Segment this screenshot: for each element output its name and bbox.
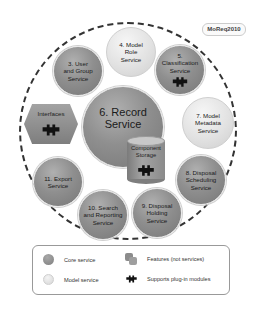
model-role-service-label-2: Role [125,48,138,55]
legend-features: Features (not services) [125,253,204,265]
record-service-label-2: Service [105,118,142,131]
classification-service-label-1: 5. [177,52,182,59]
legend-core-service: Core service [43,254,95,265]
component-storage-feature[interactable]: Component Storage [127,136,165,184]
classification-service-label-3: Service [170,67,191,74]
model-metadata-service-label-1: 7. Model [196,112,220,119]
model-metadata-service[interactable]: 7. Model Metadata Service [182,97,234,149]
search-reporting-service[interactable]: 10. Search and Reporting Service [78,190,128,240]
export-service[interactable]: 11. Export Service [33,157,83,207]
disposal-holding-service-label-3: Service [147,217,168,224]
disposal-holding-service[interactable]: 9. Disposal Holding Service [132,188,182,238]
search-reporting-service-label-2: and Reporting [84,211,123,218]
interfaces-label: Interfaces [37,110,64,117]
model-role-service[interactable]: 4. Model Role Service [106,27,156,77]
legend-plugin-label: Supports plug-in modules [147,276,210,282]
puzzle-plugin-icon [136,164,156,177]
user-group-service[interactable]: 3. User and Group Service [53,46,103,96]
moreq2010-badge: MoReq2010 [202,23,246,36]
component-storage-label-2: Storage [136,152,156,159]
model-role-service-label-3: Service [121,56,142,63]
component-storage-label-1: Component [131,145,161,152]
disposal-scheduling-service-label-3: Service [191,184,212,191]
core-service-swatch-icon [43,254,54,265]
legend-core-label: Core service [64,257,95,263]
search-reporting-service-label-1: 10. Search [88,204,118,211]
record-service-label-1: 6. Record [99,106,147,119]
disposal-holding-service-label-1: 9. Disposal [142,202,173,209]
export-service-label-2: Service [48,182,69,189]
user-group-service-label-1: 3. User [68,60,88,67]
legend-plugin: Supports plug-in modules [125,274,210,284]
puzzle-plugin-icon [125,274,138,284]
disposal-scheduling-service-label-2: Scheduling [186,176,217,183]
model-service-swatch-icon [43,274,54,285]
legend: Core service Model service Features (not… [32,245,230,295]
disposal-scheduling-service-label-1: 8. Disposal [186,169,217,176]
search-reporting-service-label-3: Service [93,219,114,226]
model-role-service-label-1: 4. Model [119,41,143,48]
legend-features-label: Features (not services) [147,256,204,262]
interfaces-feature[interactable]: Interfaces [24,104,78,144]
legend-model-label: Model service [64,277,99,283]
user-group-service-label-2: and Group [63,67,92,74]
puzzle-plugin-icon [40,123,62,137]
user-group-service-label-3: Service [68,75,89,82]
classification-service[interactable]: 5. Classification Service [155,45,205,95]
export-service-label-1: 11. Export [44,175,72,182]
disposal-holding-service-label-2: Holding [147,209,168,216]
legend-model-service: Model service [43,274,99,285]
puzzle-plugin-icon [171,76,189,88]
model-metadata-service-label-3: Service [198,127,219,134]
classification-service-label-2: Classification [162,59,198,66]
model-metadata-service-label-2: Metadata [195,119,221,126]
features-swatch-icon [125,253,137,265]
disposal-scheduling-service[interactable]: 8. Disposal Scheduling Service [176,155,226,205]
